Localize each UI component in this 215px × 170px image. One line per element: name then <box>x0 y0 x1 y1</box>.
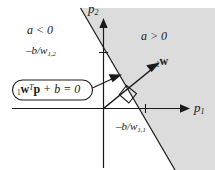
weight-vector-label: 1w <box>156 55 168 69</box>
boundary-equation-label: 1wTp + b = 0 <box>17 83 80 97</box>
decision-boundary-figure: p2 p1 a < 0 a > 0 –b/w1,2 –b/w1,1 1w 1wT… <box>0 0 215 170</box>
axis-label-p1: p1 <box>194 101 205 116</box>
region-label-positive: a > 0 <box>141 30 167 42</box>
equation-leader-arrow <box>93 74 123 88</box>
region-label-negative: a < 0 <box>27 24 53 36</box>
intercept-label-p2: –b/w1,2 <box>26 45 56 58</box>
axis-label-p2: p2 <box>88 2 99 17</box>
intercept-label-p1: –b/w1,1 <box>116 121 146 134</box>
